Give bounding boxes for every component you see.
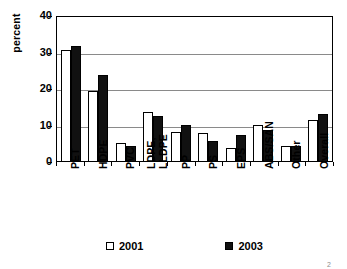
x-tick-label: Overall xyxy=(319,133,330,169)
legend-item-2001: 2001 xyxy=(106,240,143,252)
x-tick-label: PET xyxy=(70,148,81,169)
x-tick-label: PP xyxy=(181,155,192,169)
y-axis-label: percent xyxy=(10,0,24,78)
x-label-slot: PS xyxy=(195,167,223,229)
legend-swatch-2001 xyxy=(106,242,114,250)
legend-item-2003: 2003 xyxy=(225,240,262,252)
bar-group xyxy=(195,17,223,161)
x-tick-mark xyxy=(278,162,279,166)
bar-2001 xyxy=(308,120,318,161)
legend-label-2001: 2001 xyxy=(119,240,143,252)
x-label-slot: HDPE xyxy=(84,167,112,229)
x-tick-label: Other xyxy=(291,140,302,169)
x-label-slot: PVC xyxy=(111,167,139,229)
x-label-slot: Overall xyxy=(305,167,333,229)
y-tick-mark xyxy=(48,16,52,17)
x-tick-label: HDPE xyxy=(98,139,109,169)
x-tick-label: PS xyxy=(208,155,219,169)
page-footnote-marker: 2 xyxy=(327,261,331,268)
x-tick-mark xyxy=(84,162,85,166)
y-tick-mark xyxy=(48,89,52,90)
x-label-slot: Other xyxy=(278,167,306,229)
y-tick-mark xyxy=(48,53,52,54)
x-tick-mark xyxy=(222,162,223,166)
x-tick-label: EPS xyxy=(236,148,247,169)
x-tick-mark xyxy=(139,162,140,166)
legend-swatch-2003 xyxy=(225,242,233,250)
bar-2003 xyxy=(71,46,81,161)
x-label-slot: ABS/SAN xyxy=(250,167,278,229)
bar-group xyxy=(167,17,195,161)
x-tick-label: PVC xyxy=(125,147,136,169)
y-tick-label: 10 xyxy=(26,120,52,131)
bar-group xyxy=(222,17,250,161)
x-label-slot: EPS xyxy=(222,167,250,229)
bar-2001 xyxy=(61,50,71,161)
bar-chart: percent 010203040 PETHDPEPVCLDPE, LLDPEP… xyxy=(0,0,347,269)
x-tick-mark xyxy=(250,162,251,166)
y-tick-mark xyxy=(48,126,52,127)
bar-2001 xyxy=(253,125,263,162)
chart-legend: 2001 2003 xyxy=(56,236,333,256)
y-axis-ticks: 010203040 xyxy=(24,0,52,269)
x-tick-mark xyxy=(195,162,196,166)
y-tick-label: 30 xyxy=(26,47,52,58)
x-tick-label: LDPE, LLDPE xyxy=(146,134,169,169)
y-tick-mark xyxy=(48,162,52,163)
x-label-slot: LDPE, LLDPE xyxy=(139,167,167,229)
x-label-slot: PP xyxy=(167,167,195,229)
x-tick-mark xyxy=(111,162,112,166)
bar-group xyxy=(112,17,140,161)
x-tick-mark xyxy=(56,162,57,166)
x-axis-labels: PETHDPEPVCLDPE, LLDPEPPPSEPSABS/SANOther… xyxy=(56,167,333,229)
x-tick-mark xyxy=(333,162,334,166)
bar-group xyxy=(57,17,85,161)
x-tick-mark xyxy=(305,162,306,166)
bar-group xyxy=(277,17,305,161)
x-tick-label: ABS/SAN xyxy=(264,121,275,169)
legend-label-2003: 2003 xyxy=(238,240,262,252)
x-label-slot: PET xyxy=(56,167,84,229)
